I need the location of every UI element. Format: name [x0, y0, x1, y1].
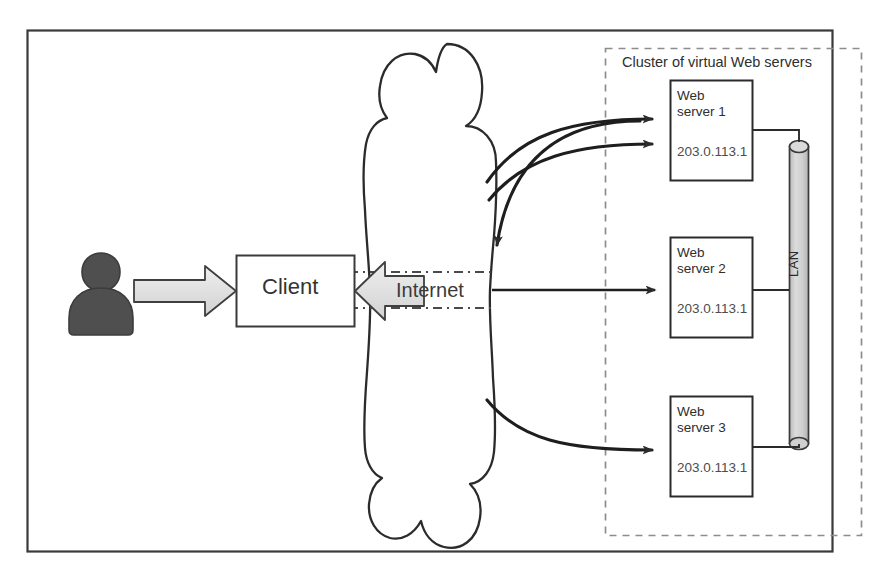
block-arrow-right-icon [134, 266, 236, 316]
lan-label: LAN [786, 251, 801, 278]
web-server-1-label: Webserver 1 [677, 88, 726, 120]
web-server-3-name-line1: Web [677, 404, 705, 419]
web-server-1-ip: 203.0.113.1 [677, 144, 747, 160]
web-server-3-name-line2: server 3 [677, 420, 726, 435]
web-server-3-ip: 203.0.113.1 [677, 460, 747, 476]
web-server-1-name-line1: Web [677, 88, 705, 103]
web-server-2-label: Webserver 2 [677, 245, 726, 277]
web-server-2-ip: 203.0.113.1 [677, 301, 747, 317]
web-server-2-name-line1: Web [677, 245, 705, 260]
cluster-title: Cluster of virtual Web servers [622, 54, 812, 71]
curved-arrow-to-server1-upper [487, 119, 652, 182]
lan-cylinder [790, 141, 809, 450]
web-server-1-name-line2: server 1 [677, 104, 726, 119]
person-icon [69, 253, 133, 335]
diagram-canvas: Cluster of virtual Web servers Webserver… [0, 0, 883, 580]
client-label: Client [262, 274, 318, 300]
curved-arrow-to-server3 [487, 400, 652, 450]
web-server-2-name-line2: server 2 [677, 261, 726, 276]
curved-arrow-into-cloud [497, 121, 640, 245]
web-server-3-label: Webserver 3 [677, 404, 726, 436]
link-server1-lan [752, 130, 799, 142]
internet-label: Internet [396, 279, 464, 303]
